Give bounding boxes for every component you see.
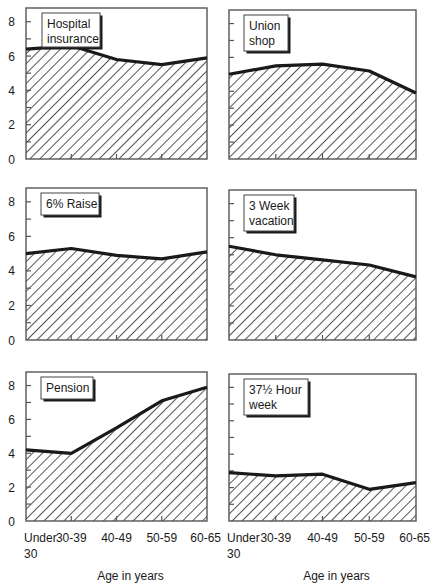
x-tick-label: 40-49 <box>101 531 132 545</box>
chart-panel-6-raise: 024686% Raise <box>8 188 207 348</box>
legend-label: week <box>248 398 278 412</box>
legend-box: 6% Raise <box>41 193 102 218</box>
y-tick-label: 8 <box>8 379 15 393</box>
chart-figure: 02468HospitalinsuranceUnionshop024686% R… <box>0 0 432 585</box>
y-tick-label: 2 <box>8 118 15 132</box>
y-tick-label: 0 <box>8 515 15 529</box>
x-tick-label: Under <box>227 531 260 545</box>
area-fill <box>229 473 416 521</box>
x-tick-label: 40-49 <box>307 531 338 545</box>
legend-label: 3 Week <box>249 199 290 213</box>
legend-box: Pension <box>41 377 96 402</box>
legend-label: 6% Raise <box>46 197 98 211</box>
legend-box: Hospitalinsurance <box>42 13 103 50</box>
legend-label: vacation <box>249 214 294 228</box>
legend-label: 37½ Hour <box>249 383 302 397</box>
x-tick-label: 30 <box>24 547 38 561</box>
area-fill <box>26 249 207 341</box>
y-tick-label: 8 <box>8 195 15 209</box>
x-tick-label: 50-59 <box>354 531 385 545</box>
chart-panel-3-week-vacation: 3 Weekvacation <box>229 190 416 340</box>
y-tick-label: 8 <box>8 15 15 29</box>
x-tick-label: 30 <box>227 547 241 561</box>
y-tick-label: 2 <box>8 299 15 313</box>
area-fill <box>26 387 207 521</box>
y-tick-label: 0 <box>8 334 15 348</box>
chart-panel-pension: 02468PensionUnder3030-3940-4950-5960-65A… <box>8 372 221 583</box>
legend-label: shop <box>249 34 275 48</box>
legend-box: Unionshop <box>244 15 291 54</box>
legend-label: insurance <box>47 32 99 46</box>
x-tick-label: 60-65 <box>399 531 430 545</box>
legend-label: Union <box>249 19 280 33</box>
y-tick-label: 4 <box>8 264 15 278</box>
y-tick-label: 4 <box>8 447 15 461</box>
y-tick-label: 2 <box>8 481 15 495</box>
x-tick-label: 50-59 <box>146 531 177 545</box>
legend-box: 37½ Hourweek <box>244 379 311 418</box>
x-tick-label: 60-65 <box>190 531 221 545</box>
legend-box: 3 Weekvacation <box>244 195 297 234</box>
legend-label: Pension <box>46 381 89 395</box>
y-tick-label: 4 <box>8 84 15 98</box>
y-tick-label: 6 <box>8 230 15 244</box>
x-tick-label: Under <box>24 531 57 545</box>
legend-label: Hospital <box>47 17 90 31</box>
y-tick-label: 6 <box>8 413 15 427</box>
y-tick-label: 6 <box>8 50 15 64</box>
x-tick-label: 30-39 <box>56 531 87 545</box>
chart-panel-hospital-insurance: 02468Hospitalinsurance <box>8 8 207 167</box>
x-tick-label: 30-39 <box>260 531 291 545</box>
chart-panel-union-shop: Unionshop <box>229 10 416 159</box>
x-axis-title: Age in years <box>303 569 370 583</box>
x-axis-title: Age in years <box>97 569 164 583</box>
y-tick-label: 0 <box>8 153 15 167</box>
chart-panel-37-hour-week: 37½ HourweekUnder3030-3940-4950-5960-65A… <box>227 374 430 583</box>
